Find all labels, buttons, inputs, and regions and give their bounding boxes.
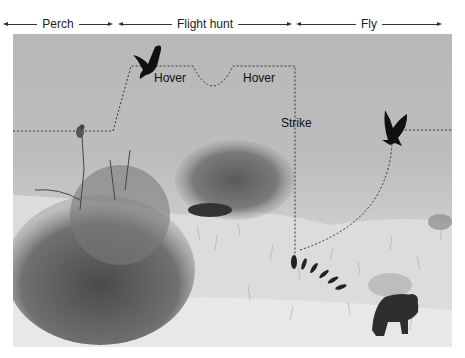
photo-scene: Hover Hover Strike [13, 34, 452, 347]
phase-line [301, 24, 356, 25]
phase-flight-hunt: Flight hunt [118, 15, 292, 33]
phase-line [238, 24, 287, 25]
phase-line [79, 24, 108, 25]
scene-illustration [13, 34, 452, 347]
phase-line [123, 24, 172, 25]
distant-bush [175, 140, 295, 220]
hover-label-2: Hover [243, 71, 275, 85]
phase-header: Perch Flight hunt Fly [0, 0, 465, 34]
arrow-right-icon [437, 22, 442, 26]
acacia-shrub [13, 135, 195, 345]
phase-perch: Perch [3, 15, 113, 33]
phase-label: Flight hunt [172, 17, 238, 31]
strike-label: Strike [281, 116, 312, 130]
phase-fly: Fly [296, 15, 442, 33]
phase-label: Fly [356, 17, 382, 31]
flying-kestrel-with-prey [382, 110, 407, 146]
phase-line [8, 24, 37, 25]
arrow-right-icon [108, 22, 113, 26]
perched-kestrel [76, 125, 85, 139]
phase-label: Perch [37, 17, 78, 31]
hover-label-1: Hover [154, 71, 186, 85]
phase-line [382, 24, 437, 25]
arrow-right-icon [287, 22, 292, 26]
